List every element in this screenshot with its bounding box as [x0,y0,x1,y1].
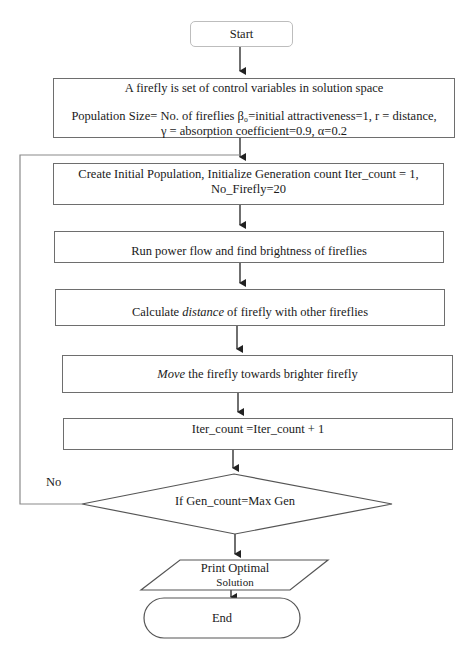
end-node: End [144,598,300,638]
calc-prefix: Calculate [132,305,182,319]
init-line-2: No_Firefly=20 [211,182,286,197]
move-label: Move the firefly towards brighter firefl… [157,367,357,382]
start-label: Start [230,27,254,42]
run-power-flow-box: Run power flow and find brightness of fi… [54,231,444,263]
run-label: Run power flow and find brightness of fi… [131,244,367,259]
iter-label: Iter_count =Iter_count + 1 [192,422,324,437]
no-branch-label: No [46,475,61,490]
output-node: Print Optimal Solution [170,560,300,590]
loop-back-no-line [20,155,240,504]
output-line-2: Solution [216,575,253,589]
start-node: Start [190,21,293,47]
calc-suffix: of firefly with other fireflies [224,305,368,319]
init-line-1: Create Initial Population, Initialize Ge… [78,167,418,182]
end-label: End [212,611,232,626]
calc-label: Calculate distance of firefly with other… [132,305,368,320]
move-emph: Move [157,367,185,381]
define-line-1: A firefly is set of control variables in… [125,81,384,96]
move-suffix: the firefly towards brighter firefly [185,367,358,381]
iter-count-box: Iter_count =Iter_count + 1 [63,418,453,450]
init-population-box: Create Initial Population, Initialize Ge… [53,163,444,205]
define-variables-box: A firefly is set of control variables in… [53,78,455,138]
calculate-distance-box: Calculate distance of firefly with other… [55,289,445,326]
define-line-2: Population Size= No. of fireflies β₀=ini… [71,109,436,124]
decision-node: If Gen_count=Max Gen [150,490,320,512]
move-firefly-box: Move the firefly towards brighter firefl… [62,355,453,393]
decision-label: If Gen_count=Max Gen [175,494,295,509]
calc-emph: distance [182,305,224,319]
define-line-3: γ = absorption coefficient=0.9, α=0.2 [161,124,347,139]
output-line-1: Print Optimal [201,561,269,575]
